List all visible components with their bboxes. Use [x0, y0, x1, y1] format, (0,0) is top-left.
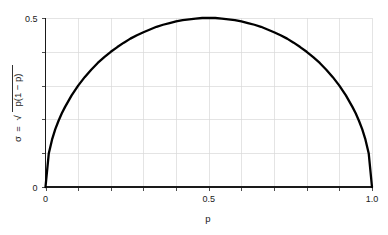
- x-tick-label: 0.5: [202, 194, 215, 204]
- x-axis-title: p: [205, 213, 210, 224]
- chart-figure: 00.51.0 00.5 p σ = √ p(1 − p): [0, 0, 388, 235]
- y-axis-title-radicand: p(1 − p): [12, 73, 23, 106]
- standard-deviation-plot: 00.51.0 00.5 p σ = √ p(1 − p): [0, 0, 388, 235]
- y-axis-title-radical: √: [12, 115, 23, 121]
- y-axis-title-equals: =: [12, 126, 23, 132]
- y-tick-label: 0.5: [25, 14, 38, 24]
- x-tick-label: 0: [43, 194, 48, 204]
- figure-background: [0, 0, 388, 235]
- y-axis-title: σ = √ p(1 − p): [12, 65, 23, 142]
- y-tick-label: 0: [32, 183, 37, 193]
- y-axis-title-sigma: σ: [12, 136, 23, 142]
- x-tick-label: 1.0: [366, 194, 379, 204]
